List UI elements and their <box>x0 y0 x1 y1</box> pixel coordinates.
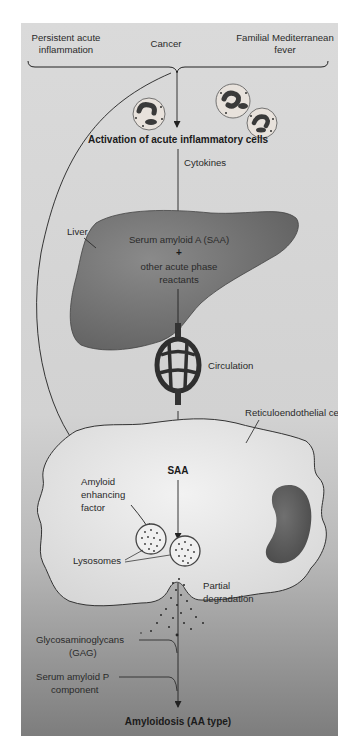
aef-line1: Amyloid <box>81 476 115 487</box>
liver-saa-label: Serum amyloid A (SAA) <box>129 234 229 245</box>
lysosomes-label: Lysosomes <box>73 555 121 566</box>
lysosome-2 <box>170 536 200 566</box>
cause-persistent-inflammation-line1: Persistent acute <box>32 32 101 43</box>
saa-label: SAA <box>167 465 188 476</box>
panel-background <box>21 23 338 736</box>
cytokines-label: Cytokines <box>184 157 226 168</box>
re-cell-label: Reticuloendothelial cell <box>245 407 338 418</box>
sap-line1: Serum amyloid P <box>36 671 109 682</box>
amyloidosis-pathway-diagram: Persistent acute inflammation Cancer Fam… <box>21 23 338 736</box>
diagram-panel: Persistent acute inflammation Cancer Fam… <box>21 23 338 736</box>
liver-plus: + <box>176 247 182 258</box>
aef-line3: factor <box>81 502 106 513</box>
gag-line1: Glycosaminoglycans <box>36 634 124 645</box>
aef-line2: enhancing <box>81 489 125 500</box>
activation-label: Activation of acute inflammatory cells <box>88 134 268 145</box>
sap-line2: component <box>51 684 99 695</box>
gag-line2: (GAG) <box>69 647 97 658</box>
cause-fmf-line2: fever <box>274 44 296 55</box>
liver-other-line1: other acute phase <box>141 261 218 272</box>
lysosome-1 <box>136 524 166 554</box>
neutrophil-2 <box>216 84 250 118</box>
cause-persistent-inflammation-line2: inflammation <box>39 44 93 55</box>
liver-other-line2: reactants <box>159 274 199 285</box>
neutrophil-1 <box>133 98 165 130</box>
partial-degradation-line2: degradation <box>203 593 254 604</box>
cause-fmf-line1: Familial Mediterranean <box>236 32 334 43</box>
result-amyloidosis: Amyloidosis (AA type) <box>125 716 231 727</box>
circulation-label: Circulation <box>208 360 253 371</box>
cause-cancer: Cancer <box>151 38 183 49</box>
partial-degradation-line1: Partial <box>203 580 230 591</box>
liver-label: Liver <box>67 226 89 237</box>
